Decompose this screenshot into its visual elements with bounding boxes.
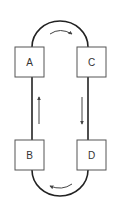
node-a-label: A	[26, 57, 33, 68]
node-c: C	[77, 47, 106, 77]
node-b: B	[15, 140, 44, 170]
node-a: A	[15, 47, 44, 77]
direction-arrows	[39, 31, 82, 189]
cycle-diagram: A C B D	[0, 0, 117, 213]
arrow-top-clockwise-icon	[50, 31, 72, 35]
node-b-label: B	[26, 150, 33, 161]
node-d-label: D	[88, 150, 95, 161]
edge-a-to-c-arc	[32, 21, 88, 47]
node-d: D	[77, 140, 106, 170]
node-c-label: C	[88, 57, 95, 68]
arrow-bottom-clockwise-icon	[50, 184, 72, 188]
edge-d-to-b-arc	[32, 170, 88, 196]
